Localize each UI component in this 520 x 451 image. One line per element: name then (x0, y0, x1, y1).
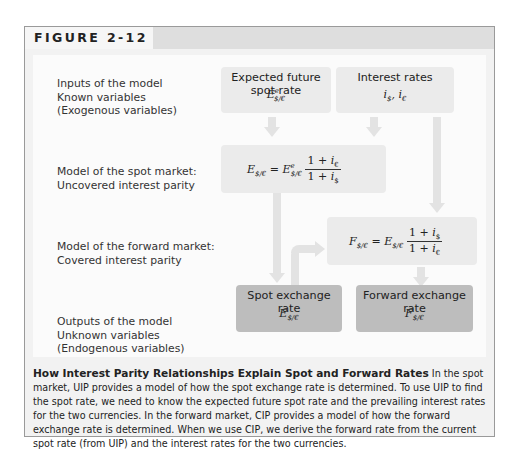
arrow-spot-to-cip-horizontal (291, 245, 317, 253)
interest-rates-var: i$, i€ (336, 88, 454, 103)
expected-spot-rate-box: Expected future spot rate Ee$/€ (221, 67, 331, 113)
caption-title: How Interest Parity Relationships Explai… (33, 367, 429, 379)
uip-formula-box: E$/€ = Ee$/€ 1 + i€1 + i$ (221, 145, 386, 193)
spot-exchange-rate-box: Spot exchange rate E$/€ (236, 285, 342, 332)
arrowhead-icon (366, 127, 382, 137)
arrowhead-icon (264, 127, 280, 137)
header-band (153, 27, 494, 49)
arrow-uip-to-spot (273, 185, 281, 275)
row-label-inputs: Inputs of the model Known variables (Exo… (57, 77, 177, 118)
row-label-forward-model: Model of the forward market: Covered int… (57, 240, 215, 267)
diagram-panel: Inputs of the model Known variables (Exo… (33, 55, 486, 357)
figure-label: FIGURE 2-12 (34, 30, 148, 45)
arrow-interest-to-cip (433, 117, 441, 205)
forward-exchange-rate-box: Forward exchange rate F$/€ (356, 285, 473, 332)
caption-text: In the spot market, UIP provides a model… (33, 368, 485, 449)
row-label-spot-model: Model of the spot market: Uncovered inte… (57, 165, 197, 192)
spot-exchange-rate-var: E$/€ (236, 307, 342, 322)
interest-rates-box: Interest rates i$, i€ (336, 67, 454, 113)
forward-exchange-rate-var: F$/€ (356, 307, 473, 322)
cip-formula-box: F$/€ = E$/€ 1 + i$1 + i€ (327, 217, 477, 265)
interest-rates-title: Interest rates (336, 71, 454, 84)
expected-spot-rate-var: Ee$/€ (221, 87, 331, 103)
figure-frame: FIGURE 2-12 Inputs of the model Known va… (24, 26, 495, 437)
figure-caption: How Interest Parity Relationships Explai… (33, 366, 488, 451)
uip-formula: E$/€ = Ee$/€ 1 + i€1 + i$ (247, 154, 341, 185)
figure-header: FIGURE 2-12 (25, 27, 494, 49)
cip-formula: F$/€ = E$/€ 1 + i$1 + i€ (349, 226, 442, 257)
arrowhead-icon (429, 203, 445, 213)
row-label-outputs: Outputs of the model Unknown variables (… (57, 315, 185, 356)
arrowhead-icon (269, 273, 285, 283)
arrowhead-right-icon (315, 241, 325, 257)
